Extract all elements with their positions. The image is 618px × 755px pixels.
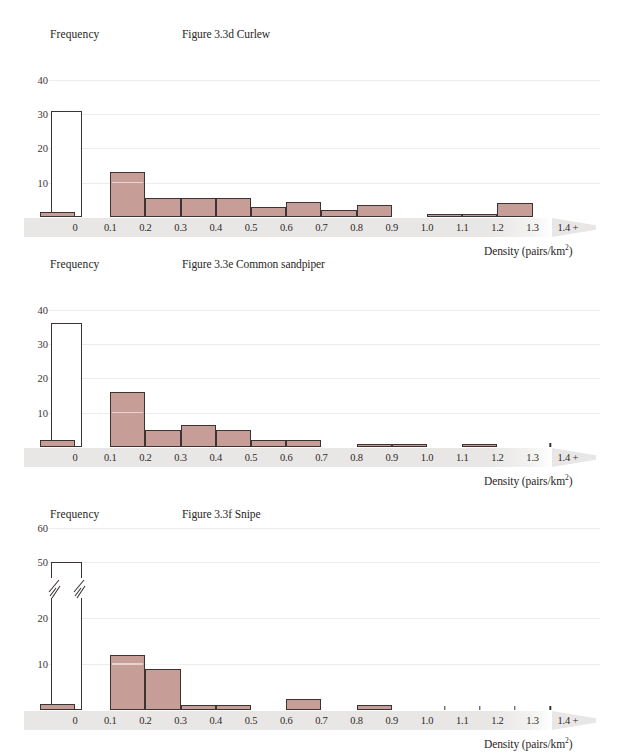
gridline	[48, 80, 600, 81]
histogram-bar[interactable]	[462, 214, 497, 217]
histogram-bar[interactable]	[286, 699, 321, 711]
x-axis-tick-label: 0.5	[245, 222, 258, 233]
x-axis-tick-label: 0.4	[210, 452, 223, 463]
x-axis-tick-label: 0.9	[386, 222, 399, 233]
x-axis-tick-label: 1.3	[526, 222, 539, 233]
histogram-bar[interactable]	[427, 214, 462, 217]
bar-highlight-stripe	[112, 182, 143, 184]
histogram-bar[interactable]	[286, 440, 321, 447]
x-axis-tick-label: 1.2	[491, 222, 504, 233]
histogram-bar[interactable]	[145, 669, 180, 710]
figure-caption: Figure 3.3e Common sandpiper	[182, 258, 325, 270]
x-axis-tick-label: 0.2	[139, 452, 152, 463]
figure-caption: Figure 3.3d Curlew	[182, 28, 270, 40]
x-axis-tick-label: 0.5	[245, 715, 258, 726]
histogram-bar[interactable]	[357, 205, 392, 217]
x-axis-tick-label: 0.3	[174, 715, 187, 726]
x-axis-tick-label: 0.3	[174, 452, 187, 463]
x-axis-tick-label: 0.7	[315, 452, 328, 463]
x-axis-tick-label: 1.2	[491, 715, 504, 726]
figure-header-curlew: Frequency Figure 3.3d Curlew	[0, 28, 618, 48]
gridline	[48, 344, 600, 345]
histogram-bar[interactable]	[110, 392, 145, 447]
y-axis-title: Frequency	[50, 508, 99, 520]
y-axis-title: Frequency	[50, 258, 99, 270]
x-axis-tick-label: 0.2	[139, 715, 152, 726]
figure-common-sandpiper: Frequency Figure 3.3e Common sandpiper 1…	[0, 258, 618, 486]
x-axis-tick-label: 1.0	[421, 452, 434, 463]
histogram-bar[interactable]	[392, 444, 427, 447]
histogram-bar[interactable]	[181, 705, 216, 710]
x-axis-title: Density (pairs/km2)	[484, 243, 572, 257]
histogram-bar[interactable]	[110, 172, 145, 217]
y-axis-tick-label: 40	[26, 74, 48, 85]
histogram-bar[interactable]	[216, 705, 251, 710]
x-axis-tick-label: 0.1	[104, 452, 117, 463]
histogram-bar[interactable]	[462, 444, 497, 447]
x-axis-tick-label: 0.9	[386, 452, 399, 463]
histogram-bar-zero[interactable]	[51, 111, 82, 217]
histogram-bar[interactable]	[40, 704, 75, 710]
histogram-bar[interactable]	[145, 430, 180, 447]
y-axis-tick-label: 60	[26, 523, 48, 534]
plot-area-snipe: 1020506000.10.20.30.40.50.60.70.80.91.01…	[0, 528, 618, 746]
x-axis-tick-label: 1.1	[456, 452, 469, 463]
x-axis-tick-label: 1.0	[421, 222, 434, 233]
histogram-bar[interactable]	[40, 212, 75, 217]
axis-pip-mark	[479, 706, 480, 710]
x-axis-tick-label: 0.8	[350, 452, 363, 463]
gridline	[48, 378, 600, 379]
x-axis-tick-label: 1.0	[421, 715, 434, 726]
bar-highlight-stripe	[112, 663, 143, 665]
histogram-bar[interactable]	[321, 210, 356, 217]
x-axis-tick-label: 0.6	[280, 222, 293, 233]
histogram-bar[interactable]	[216, 198, 251, 217]
axis-break-mark	[72, 576, 86, 596]
histogram-bar-zero[interactable]	[51, 323, 82, 447]
x-axis-tick-label: 1.3	[526, 452, 539, 463]
histogram-bar[interactable]	[251, 207, 286, 217]
x-axis-tick-label: 1.4 +	[557, 222, 578, 233]
axis-break-mark	[47, 576, 61, 596]
x-axis-tick-label: 0	[72, 452, 77, 463]
x-axis-tick-label: 0.3	[174, 222, 187, 233]
x-axis-tick-label: 0.4	[210, 715, 223, 726]
y-axis-tick-label: 10	[26, 407, 48, 418]
x-axis-tick-label: 0.6	[280, 715, 293, 726]
gridline	[48, 528, 600, 529]
axis-pip-mark	[549, 706, 550, 710]
x-axis-tick-label: 0.1	[104, 715, 117, 726]
bar-highlight-stripe	[112, 412, 143, 414]
y-axis-tick-label: 20	[26, 373, 48, 384]
histogram-bar[interactable]	[181, 425, 216, 447]
plot-area-common-sandpiper: 1020304000.10.20.30.40.50.60.70.80.91.01…	[0, 278, 618, 483]
histogram-bar[interactable]	[357, 444, 392, 447]
bar-highlight-stripe	[147, 663, 178, 665]
figure-snipe: Frequency Figure 3.3f Snipe 1020506000.1…	[0, 508, 618, 750]
x-axis-tick-label: 0	[72, 715, 77, 726]
y-axis-tick-label: 10	[26, 177, 48, 188]
histogram-bar[interactable]	[497, 203, 532, 217]
y-axis-tick-label: 20	[26, 613, 48, 624]
x-axis-tick-label: 0	[72, 222, 77, 233]
histogram-bar[interactable]	[216, 430, 251, 447]
histogram-bar[interactable]	[181, 198, 216, 217]
x-axis-tick-label: 0.7	[315, 715, 328, 726]
x-axis-tick-label: 1.1	[456, 222, 469, 233]
x-axis-tick-label: 0.7	[315, 222, 328, 233]
histogram-bar[interactable]	[145, 198, 180, 217]
x-axis-tick-label: 1.3	[526, 715, 539, 726]
histogram-bar[interactable]	[251, 440, 286, 447]
gridline	[48, 562, 600, 563]
gridline	[48, 618, 600, 619]
figure-caption: Figure 3.3f Snipe	[182, 508, 260, 520]
x-axis-tick-label: 0.8	[350, 222, 363, 233]
histogram-bar[interactable]	[286, 202, 321, 217]
histogram-bar[interactable]	[357, 705, 392, 710]
x-axis-tick-label: 0.2	[139, 222, 152, 233]
x-axis-tick-label: 1.4 +	[557, 715, 578, 726]
gridline	[48, 114, 600, 115]
x-axis-tick-label: 1.4 +	[557, 452, 578, 463]
y-axis-tick-label: 20	[26, 143, 48, 154]
histogram-bar[interactable]	[40, 440, 75, 447]
